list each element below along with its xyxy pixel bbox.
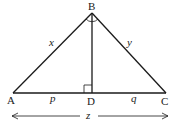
right-angle-marker-D [84, 85, 92, 93]
side-AB [13, 13, 92, 93]
segment-label-q: q [131, 92, 137, 104]
side-BC [92, 13, 166, 93]
right-triangle-diagram: B A D C x y p q z [0, 0, 184, 125]
vertex-label-C: C [161, 95, 168, 107]
segment-label-x: x [48, 36, 54, 48]
vertex-label-D: D [87, 95, 95, 107]
segment-label-y: y [126, 36, 132, 48]
segment-label-p: p [49, 92, 56, 104]
vertex-label-B: B [88, 0, 95, 12]
segment-label-z: z [85, 109, 91, 121]
vertex-label-A: A [7, 94, 15, 106]
